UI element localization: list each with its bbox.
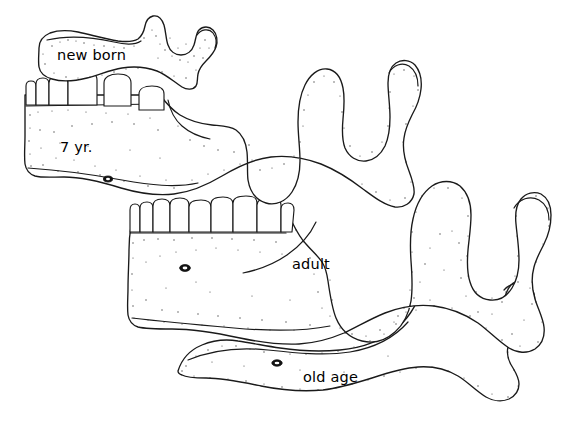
label-adult: adult <box>292 257 330 272</box>
adult-tooth <box>130 204 140 232</box>
adult-tooth <box>211 197 233 232</box>
seven-year-tooth <box>104 74 131 106</box>
adult-tooth <box>281 203 294 232</box>
adult-tooth <box>170 198 189 232</box>
adult-mental-foramen <box>180 265 191 272</box>
seven-year-tooth <box>26 81 36 105</box>
label-seven-year: 7 yr. <box>60 140 93 155</box>
mandible-development-figure: new born 7 yr. adult old age <box>0 0 563 426</box>
specimen-adult <box>128 182 551 353</box>
adult-tooth <box>189 200 211 232</box>
adult-tooth <box>233 196 257 232</box>
seven-year-tooth <box>139 86 164 110</box>
label-new-born: new born <box>57 48 126 63</box>
adult-tooth <box>153 199 170 232</box>
adult-tooth <box>140 202 153 232</box>
old-age-mental-foramen <box>272 360 282 366</box>
mandible-diagram-svg <box>0 0 563 426</box>
seven-year-tooth <box>36 78 49 105</box>
label-old-age: old age <box>303 370 358 385</box>
seven-year-mental-foramen <box>103 176 112 182</box>
specimen-seven-year <box>25 61 422 208</box>
